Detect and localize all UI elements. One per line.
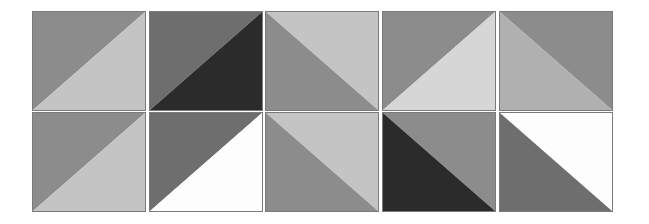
triangle-pair-graphic	[266, 113, 378, 211]
half-square-triangle-tile	[149, 11, 263, 111]
half-square-triangle-tile	[32, 11, 146, 111]
half-square-triangle-tile	[382, 112, 496, 212]
triangle-pair-graphic	[33, 12, 145, 110]
triangle-pair-graphic	[150, 113, 262, 211]
half-square-triangle-tile	[499, 112, 613, 212]
triangle-pair-graphic	[383, 113, 495, 211]
half-square-triangle-tile	[265, 112, 379, 212]
quilt-tile-board	[32, 11, 615, 213]
half-square-triangle-tile	[265, 11, 379, 111]
half-square-triangle-tile	[499, 11, 613, 111]
triangle-pair-graphic	[500, 12, 612, 110]
half-square-triangle-tile	[32, 112, 146, 212]
triangle-pair-graphic	[33, 113, 145, 211]
triangle-pair-graphic	[383, 12, 495, 110]
half-square-triangle-tile	[382, 11, 496, 111]
triangle-pair-graphic	[266, 12, 378, 110]
triangle-pair-graphic	[500, 113, 612, 211]
half-square-triangle-tile	[149, 112, 263, 212]
triangle-pair-graphic	[150, 12, 262, 110]
